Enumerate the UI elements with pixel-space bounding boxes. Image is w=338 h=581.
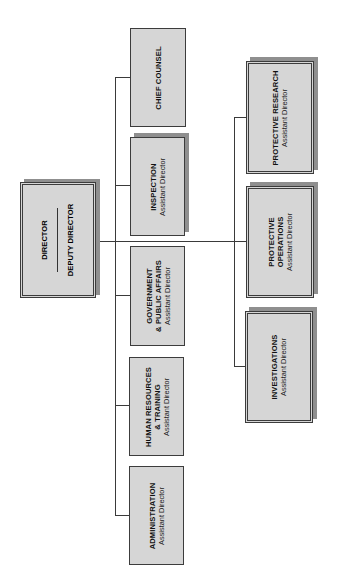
protective-research-title: PROTECTIVE RESEARCH: [271, 70, 280, 165]
administration-title: ADMINISTRATION: [148, 482, 157, 549]
connector-chief-counsel: [115, 77, 130, 78]
connector-human-resources: [115, 405, 130, 406]
node-inspection[interactable]: INSPECTION Assistant Director: [130, 133, 189, 236]
human-resources-title-line2: & TRAINING: [152, 367, 161, 447]
government-title-line1: GOVERNMENT: [144, 260, 153, 332]
node-chief-counsel[interactable]: CHIEF COUNSEL: [130, 28, 186, 127]
protective-operations-subtitle: Assistant Director: [285, 213, 294, 271]
protective-operations-label: PROTECTIVE OPERATIONS Assistant Director: [267, 213, 294, 271]
administration-card: ADMINISTRATION Assistant Director: [129, 466, 184, 565]
protective-operations-card: PROTECTIVE OPERATIONS Assistant Director: [246, 186, 314, 298]
node-administration[interactable]: ADMINISTRATION Assistant Director: [129, 466, 184, 565]
protective-research-subtitle: Assistant Director: [280, 70, 289, 165]
director-card: DIRECTOR DEPUTY DIRECTOR: [20, 182, 96, 298]
investigations-label: INVESTIGATIONS Assistant Director: [270, 335, 288, 400]
connector-administration: [115, 515, 130, 516]
protective-operations-title-line2: OPERATIONS: [276, 213, 285, 271]
connector-government: [115, 295, 130, 296]
inspection-label: INSPECTION Assistant Director: [149, 158, 167, 216]
node-human-resources-training[interactable]: HUMAN RESOURCES & TRAINING Assistant Dir…: [129, 357, 184, 456]
inspection-card: INSPECTION Assistant Director: [130, 137, 185, 236]
main-horizontal-line: [96, 241, 246, 242]
investigations-title: INVESTIGATIONS: [270, 335, 279, 400]
deputy-director-title: DEPUTY DIRECTOR: [66, 184, 75, 296]
director-label-group: DIRECTOR DEPUTY DIRECTOR: [28, 184, 88, 296]
director-node[interactable]: DIRECTOR DEPUTY DIRECTOR: [20, 179, 100, 299]
director-divider: [57, 208, 58, 272]
government-card: GOVERNMENT & PUBLIC AFFAIRS Assistant Di…: [130, 246, 185, 346]
connector-inspection: [115, 185, 130, 186]
human-resources-subtitle: Assistant Director: [161, 367, 170, 447]
government-title-line2: & PUBLIC AFFAIRS: [153, 260, 162, 332]
director-title: DIRECTOR: [40, 184, 49, 296]
chief-counsel-label: CHIEF COUNSEL: [154, 46, 163, 109]
node-investigations[interactable]: INVESTIGATIONS Assistant Director: [245, 307, 317, 423]
node-protective-research[interactable]: PROTECTIVE RESEARCH Assistant Director: [246, 57, 318, 174]
protective-operations-title-line1: PROTECTIVE: [267, 213, 276, 271]
administration-subtitle: Assistant Director: [157, 482, 166, 549]
investigations-card: INVESTIGATIONS Assistant Director: [245, 311, 313, 423]
government-subtitle: Assistant Director: [162, 260, 171, 332]
human-resources-title-line1: HUMAN RESOURCES: [143, 367, 152, 447]
ops-trunk-line: [234, 117, 235, 367]
investigations-subtitle: Assistant Director: [279, 335, 288, 400]
inspection-title: INSPECTION: [149, 158, 158, 216]
connector-protective-research: [234, 117, 246, 118]
inspection-subtitle: Assistant Director: [158, 158, 167, 216]
protective-research-card: PROTECTIVE RESEARCH Assistant Director: [246, 61, 314, 174]
human-resources-label: HUMAN RESOURCES & TRAINING Assistant Dir…: [143, 367, 170, 447]
human-resources-card: HUMAN RESOURCES & TRAINING Assistant Dir…: [129, 357, 184, 456]
chief-counsel-card: CHIEF COUNSEL: [130, 28, 186, 127]
government-label: GOVERNMENT & PUBLIC AFFAIRS Assistant Di…: [144, 260, 171, 332]
node-government-public-affairs[interactable]: GOVERNMENT & PUBLIC AFFAIRS Assistant Di…: [130, 246, 185, 346]
staff-trunk-line: [115, 77, 116, 516]
protective-research-label: PROTECTIVE RESEARCH Assistant Director: [271, 70, 289, 165]
administration-label: ADMINISTRATION Assistant Director: [148, 482, 166, 549]
node-protective-operations[interactable]: PROTECTIVE OPERATIONS Assistant Director: [246, 182, 318, 298]
chief-counsel-title: CHIEF COUNSEL: [154, 46, 163, 109]
